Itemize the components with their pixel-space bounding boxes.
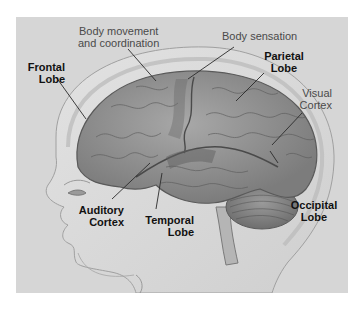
label-body-movement: Body movement and coordination (78, 25, 159, 49)
diagram-panel: Body movement and coordination Body sens… (16, 17, 348, 293)
label-body-sensation: Body sensation (222, 30, 297, 42)
label-occipital-lobe: Occipital Lobe (286, 199, 342, 223)
label-temporal-lobe: Temporal Lobe (136, 214, 194, 238)
label-parietal-lobe: Parietal Lobe (260, 50, 308, 74)
label-visual-cortex: Visual Cortex (292, 87, 332, 111)
label-auditory-cortex: Auditory Cortex (76, 204, 124, 228)
label-frontal-lobe: Frontal Lobe (23, 61, 65, 85)
